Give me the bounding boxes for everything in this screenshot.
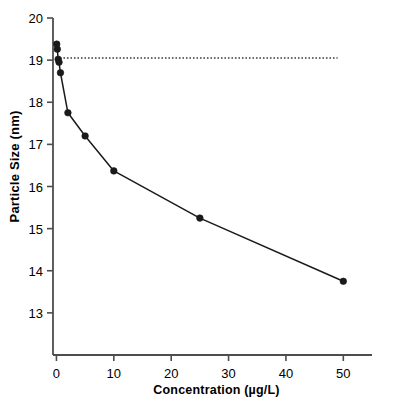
x-axis-title: Concentration (µg/L) — [153, 383, 279, 397]
y-axis-title: Particle Size (nm) — [7, 111, 22, 223]
data-point-marker[interactable] — [65, 109, 72, 116]
y-axis-tick-label: 18 — [29, 95, 43, 110]
data-point-marker[interactable] — [54, 46, 61, 53]
data-point-marker[interactable] — [56, 59, 63, 66]
y-axis-tick-label: 20 — [29, 11, 43, 26]
data-point-marker[interactable] — [340, 278, 347, 285]
data-series-line — [57, 44, 344, 281]
y-axis-tick-label: 14 — [29, 264, 43, 279]
data-point-marker[interactable] — [57, 69, 64, 76]
data-point-marker[interactable] — [197, 215, 204, 222]
data-point-marker[interactable] — [82, 133, 89, 140]
x-axis-tick-label: 20 — [164, 366, 178, 381]
y-axis-tick-label: 13 — [29, 306, 43, 321]
y-axis-tick-label: 19 — [29, 53, 43, 68]
x-axis-tick-label: 0 — [53, 366, 60, 381]
particle-size-line-chart: 131415161718192001020304050Concentration… — [0, 0, 396, 403]
y-axis-tick-label: 17 — [29, 137, 43, 152]
y-axis-tick-label: 16 — [29, 180, 43, 195]
x-axis-tick-label: 30 — [221, 366, 235, 381]
x-axis-tick-label: 10 — [107, 366, 121, 381]
x-axis-tick-label: 40 — [279, 366, 293, 381]
x-axis-tick-label: 50 — [336, 366, 350, 381]
data-point-marker[interactable] — [111, 168, 118, 175]
chart-container: 131415161718192001020304050Concentration… — [0, 0, 396, 403]
y-axis-tick-label: 15 — [29, 222, 43, 237]
